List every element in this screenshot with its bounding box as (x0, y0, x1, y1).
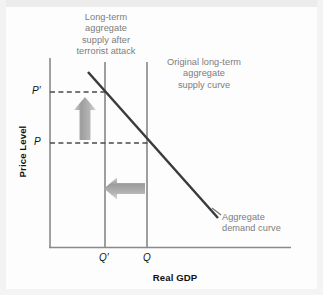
x-axis-title: Real GDP (130, 272, 220, 283)
x-tick-label-q: Q (143, 252, 151, 263)
y-tick-label-p-prime: P′ (32, 85, 41, 96)
annotation-lras-shifted: Long-term aggregate supply after terrori… (52, 12, 160, 57)
y-tick-label-p: P (34, 136, 41, 147)
x-tick-label-q-prime: Q′ (99, 252, 109, 263)
plot-canvas (0, 0, 323, 295)
annotation-aggregate-demand: Aggregate demand curve (222, 212, 318, 235)
gdp-decrease-arrow-icon (104, 178, 145, 200)
price-increase-arrow-icon (74, 97, 96, 140)
aggregate-demand-curve (88, 72, 218, 218)
annotation-lras-original: Original long-term aggregate supply curv… (148, 57, 260, 91)
economics-figure: Long-term aggregate supply after terrori… (0, 0, 323, 295)
y-axis-title: Price Level (17, 112, 28, 192)
